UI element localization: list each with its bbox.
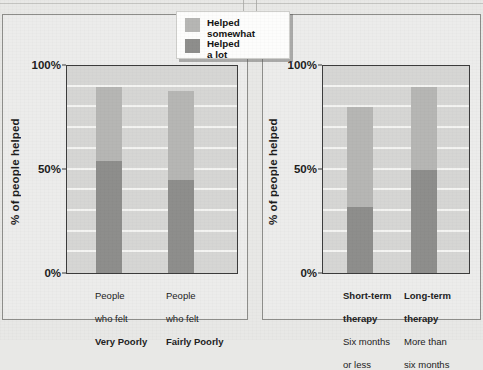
cat-line-1: People — [95, 290, 125, 301]
cat-line-3: Fairly Poorly — [166, 336, 224, 347]
cat-line-3: More than — [404, 336, 447, 347]
gridline-90 — [67, 85, 237, 87]
cat-line-3: Six months — [343, 336, 390, 347]
cat-line-1: Short-term — [343, 290, 392, 301]
gridline-30 — [67, 209, 237, 211]
cat-line-4: six months — [404, 359, 449, 370]
y-tick-label-50-right: 50% — [273, 163, 317, 175]
gridline-40 — [323, 188, 469, 190]
y-tick-label-100-left: 100% — [15, 59, 61, 71]
legend-label-helped-somewhat: Helped somewhat — [207, 18, 255, 39]
cat-line-1: Long-term — [404, 290, 451, 301]
bar-0 — [96, 87, 122, 273]
bar-segment-helped-somewhat — [168, 91, 194, 180]
gridline-70 — [323, 126, 469, 128]
bar-segment-helped-a-lot — [411, 170, 437, 274]
gridline-80 — [67, 105, 237, 107]
plot-area-right — [322, 65, 470, 274]
legend-item-helped-a-lot: Helped a lot — [185, 39, 240, 60]
page-top-rule — [0, 3, 483, 4]
gridline-80 — [323, 105, 469, 107]
category-label-long-term: Long-term therapy More than six months — [404, 279, 451, 370]
category-label-very-poorly: People who felt Very Poorly — [95, 279, 147, 347]
legend-swatch-helped-somewhat — [185, 18, 200, 32]
y-tick-label-100-right: 100% — [273, 59, 317, 71]
bar-segment-helped-somewhat — [96, 87, 122, 162]
gridline-10 — [67, 250, 237, 252]
bar-1 — [168, 91, 194, 273]
bar-segment-helped-a-lot — [96, 161, 122, 273]
bar-0 — [347, 107, 373, 273]
cat-line-2: therapy — [343, 313, 377, 324]
gridline-60 — [67, 147, 237, 149]
plot-area-left — [66, 65, 238, 274]
cat-line-3: Very Poorly — [95, 336, 147, 347]
gridline-60 — [323, 147, 469, 149]
y-axis-title-left: % of people helped — [9, 85, 21, 225]
bar-segment-helped-a-lot — [168, 180, 194, 273]
gridline-70 — [67, 126, 237, 128]
gridline-50 — [67, 168, 237, 170]
category-label-fairly-poorly: People who felt Fairly Poorly — [166, 279, 224, 347]
cat-line-2: who felt — [166, 313, 199, 324]
y-tick-label-0-right: 0% — [273, 267, 317, 279]
chart-panel-right: % of people helped 100% 50% 0% Short-ter… — [262, 14, 481, 320]
gridline-20 — [67, 230, 237, 232]
y-tick-label-50-left: 50% — [15, 163, 61, 175]
bar-segment-helped-a-lot — [347, 207, 373, 273]
y-tick-label-0-left: 0% — [15, 267, 61, 279]
gridline-30 — [323, 209, 469, 211]
legend-item-helped-somewhat: Helped somewhat — [185, 18, 255, 39]
y-axis-title-right: % of people helped — [267, 85, 279, 225]
gridline-20 — [323, 230, 469, 232]
chart-legend: Helped somewhat Helped a lot — [176, 11, 290, 59]
cat-line-1: People — [166, 290, 196, 301]
gridline-40 — [67, 188, 237, 190]
cat-line-4: or less — [343, 359, 371, 370]
cat-line-2: who felt — [95, 313, 128, 324]
bar-1 — [411, 87, 437, 273]
legend-label-helped-a-lot: Helped a lot — [207, 39, 240, 60]
gridline-90 — [323, 85, 469, 87]
cat-line-2: therapy — [404, 313, 438, 324]
bar-segment-helped-somewhat — [347, 107, 373, 206]
category-label-short-term: Short-term therapy Six months or less — [343, 279, 392, 370]
gridline-50 — [323, 168, 469, 170]
legend-swatch-helped-a-lot — [185, 39, 200, 53]
bar-segment-helped-somewhat — [411, 87, 437, 170]
gridline-10 — [323, 250, 469, 252]
